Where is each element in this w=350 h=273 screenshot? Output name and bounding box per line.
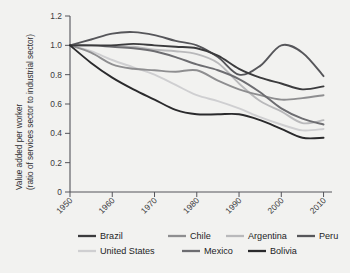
y-axis-title-line1: Value added per worker: [15, 103, 24, 190]
legend-label-chile[interactable]: Chile: [190, 231, 211, 241]
legend-label-peru[interactable]: Peru: [319, 231, 338, 241]
y-tick-label: 0.8: [50, 70, 62, 80]
y-tick-label: 0.2: [50, 158, 62, 168]
legend-label-argentina[interactable]: Argentina: [248, 231, 288, 241]
chart-canvas: Value added per worker (ratio of service…: [0, 0, 350, 273]
y-tick-label: 0.6: [50, 99, 62, 109]
chart-figure: Value added per worker (ratio of service…: [0, 0, 350, 273]
legend-label-bolivia[interactable]: Bolivia: [270, 246, 298, 256]
y-tick-label: 1.0: [50, 40, 62, 50]
legend-label-united-states[interactable]: United States: [100, 246, 155, 256]
legend-label-brazil[interactable]: Brazil: [100, 231, 123, 241]
legend-label-mexico[interactable]: Mexico: [204, 246, 233, 256]
y-axis-title-line2: (ratio of services sector to industrial …: [26, 34, 35, 190]
y-tick-label: 0.4: [50, 128, 62, 138]
y-tick-label: 1.2: [50, 11, 62, 21]
y-tick-label: 0: [57, 187, 62, 197]
